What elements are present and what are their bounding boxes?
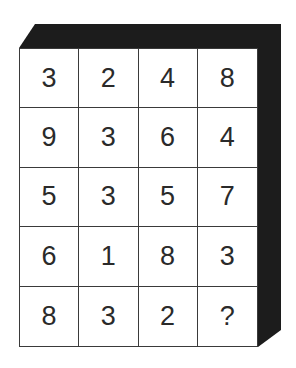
grid-cell-r5-c1: 8 [20,287,79,346]
grid-cell-r2-c1: 9 [20,108,79,167]
grid-cell-r4-c1: 6 [20,227,79,286]
grid-cell-r3-c2: 3 [79,168,138,227]
missing-number-cell: ? [198,287,257,346]
grid-cell-r4-c4: 3 [198,227,257,286]
grid-cell-r3-c3: 5 [139,168,198,227]
grid-cell-r1-c2: 2 [79,49,138,108]
grid-cell-r2-c4: 4 [198,108,257,167]
grid-cell-r1-c3: 4 [139,49,198,108]
box-top-face [19,24,281,48]
grid-cell-r5-c3: 2 [139,287,198,346]
grid-cell-r2-c2: 3 [79,108,138,167]
grid-cell-r5-c2: 3 [79,287,138,346]
number-grid: 3 2 4 8 9 3 6 4 5 3 5 7 6 1 8 3 8 3 2 ? [19,48,258,347]
grid-cell-r4-c2: 1 [79,227,138,286]
grid-cell-r1-c1: 3 [20,49,79,108]
grid-cell-r2-c3: 6 [139,108,198,167]
grid-cell-r3-c1: 5 [20,168,79,227]
grid-cell-r1-c4: 8 [198,49,257,108]
grid-cell-r3-c4: 7 [198,168,257,227]
grid-cell-r4-c3: 8 [139,227,198,286]
box-side-face [258,24,281,347]
